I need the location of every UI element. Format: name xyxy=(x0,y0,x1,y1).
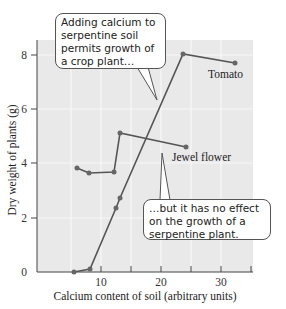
x-tick-label: 30 xyxy=(215,276,227,288)
callout-top: Adding calcium to serpentine soil permit… xyxy=(55,13,166,69)
y-tick-label: 6 xyxy=(21,103,27,115)
x-tick-label: 10 xyxy=(95,276,107,288)
callout-bottom: …but it has no effect on the growth of a… xyxy=(143,199,271,240)
series-label-tomato: Tomato xyxy=(208,68,243,80)
series-label-jewel-flower: Jewel flower xyxy=(172,151,231,163)
y-tick-label: 2 xyxy=(21,212,27,224)
y-axis-title: Dry weight of plants (g) xyxy=(6,104,19,215)
y-tick-label: 8 xyxy=(21,49,27,61)
y-tick-label: 0 xyxy=(21,266,27,278)
y-tick-label: 4 xyxy=(21,157,27,169)
x-axis-title: Calcium content of soil (arbitrary units… xyxy=(54,290,237,303)
x-tick-label: 20 xyxy=(155,276,167,288)
